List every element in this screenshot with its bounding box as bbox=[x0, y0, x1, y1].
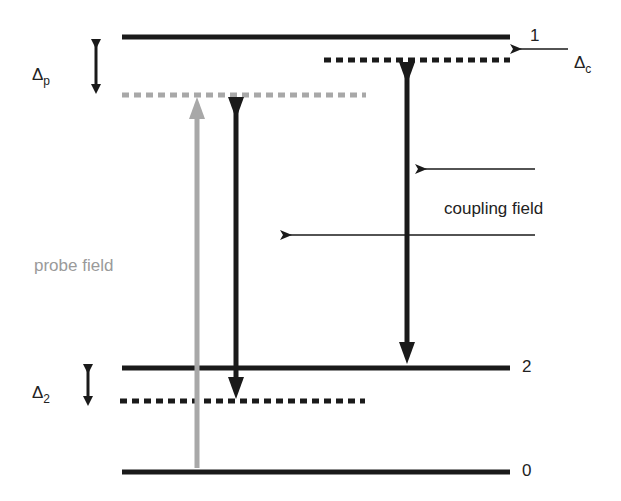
coupling-field-label: coupling field bbox=[444, 200, 543, 217]
delta-c-label: Δc bbox=[574, 54, 591, 71]
delta-2-label: Δ2 bbox=[32, 384, 50, 401]
level-1-label: 1 bbox=[530, 27, 539, 44]
delta-p-label: Δp bbox=[32, 66, 50, 83]
level-0-label: 0 bbox=[522, 462, 531, 479]
level-2-label: 2 bbox=[522, 358, 531, 375]
probe-field-label: probe field bbox=[34, 257, 113, 274]
energy-level-diagram bbox=[0, 0, 621, 501]
